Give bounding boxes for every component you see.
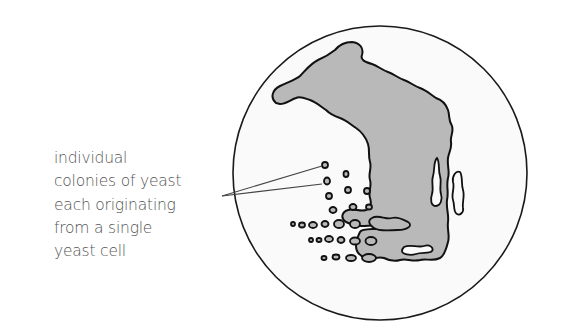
growth-gap-right	[452, 172, 463, 215]
colony	[325, 236, 333, 242]
colony	[366, 237, 377, 245]
colony	[345, 187, 351, 193]
colony	[344, 171, 349, 177]
colony	[330, 207, 337, 213]
colony	[334, 220, 344, 228]
growth-gap-bottom	[402, 245, 433, 254]
colony	[317, 238, 322, 242]
colony	[322, 162, 328, 168]
colony	[350, 220, 360, 228]
colony	[324, 178, 330, 185]
colony	[322, 256, 327, 260]
colony	[364, 188, 370, 194]
colony	[366, 205, 372, 210]
colony	[299, 223, 305, 228]
colony	[291, 222, 295, 226]
colony	[309, 238, 313, 242]
colony	[338, 237, 345, 243]
colony	[333, 255, 340, 260]
colony	[322, 221, 329, 227]
colony	[309, 222, 317, 228]
colony	[350, 238, 360, 245]
colony	[346, 255, 356, 261]
colony	[326, 193, 332, 199]
colony	[350, 204, 357, 210]
colony	[362, 254, 376, 262]
petri-dish-diagram	[0, 0, 561, 336]
